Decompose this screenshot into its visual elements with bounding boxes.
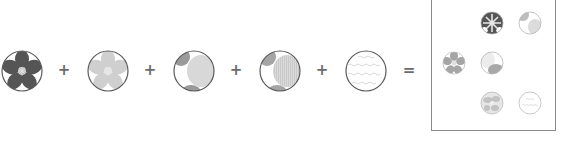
- text-texture-circle-icon: [344, 49, 388, 93]
- equals-operator: =: [403, 63, 416, 78]
- decomposition-diagram: + + +: [0, 0, 576, 142]
- result-patch-mid-flower-icon: [442, 51, 466, 75]
- result-patch-mid-blobs-icon: [480, 51, 504, 75]
- result-patch-dark-flower-icon: [480, 11, 504, 35]
- plus-operator-1: +: [58, 63, 71, 78]
- striped-blob-layer-circle-icon: [258, 49, 302, 93]
- result-patch-text-texture-icon: [518, 91, 542, 115]
- result-patch-light-blobs-icon: [518, 11, 542, 35]
- result-patch-light-flower-icon: [480, 91, 504, 115]
- plus-operator-2: +: [144, 63, 157, 78]
- plus-operator-3: +: [230, 63, 243, 78]
- dark-flower-circle-icon: [0, 49, 44, 93]
- blob-layer-circle-icon: [172, 49, 216, 93]
- light-flower-circle-icon: [86, 49, 130, 93]
- plus-operator-4: +: [316, 63, 329, 78]
